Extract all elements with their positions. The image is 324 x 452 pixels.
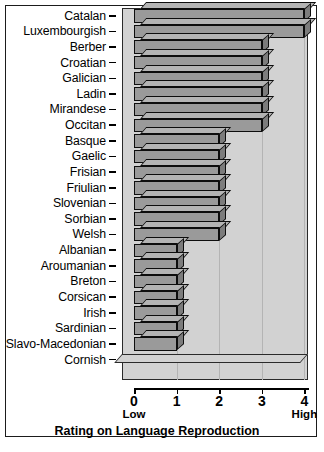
x-axis-low-label: Low bbox=[114, 408, 154, 420]
category-label-row: Luxembourgish bbox=[0, 24, 118, 40]
bar-top-face bbox=[140, 33, 274, 40]
category-label: Occitan bbox=[65, 119, 106, 131]
category-tick-mark bbox=[109, 234, 116, 236]
category-label-row: Croatian bbox=[0, 55, 118, 71]
category-label-row: Frisian bbox=[0, 164, 118, 180]
category-label: Berber bbox=[70, 41, 106, 53]
category-label-row: Ladin bbox=[0, 86, 118, 102]
x-tick-label: 0 bbox=[122, 393, 146, 409]
category-label-row: Slavo-Macedonian bbox=[0, 336, 118, 352]
category-tick-mark bbox=[109, 328, 116, 330]
category-label-row: Galician bbox=[0, 71, 118, 87]
bar-top-face bbox=[140, 174, 231, 181]
category-label: Croatian bbox=[60, 57, 106, 69]
x-tick-label: 1 bbox=[165, 393, 189, 409]
bar-top-face bbox=[140, 112, 274, 119]
category-label: Sorbian bbox=[64, 213, 106, 225]
category-label: Sardinian bbox=[55, 322, 106, 334]
x-tick-label: 2 bbox=[207, 393, 231, 409]
category-label: Welsh bbox=[73, 228, 106, 240]
bar-top-face bbox=[140, 96, 274, 103]
bar-top-face bbox=[140, 127, 231, 134]
bar bbox=[134, 337, 177, 350]
category-tick-mark bbox=[109, 62, 116, 64]
bar-front-face bbox=[134, 337, 177, 350]
category-label: Frisian bbox=[70, 166, 106, 178]
base-front-edge bbox=[114, 354, 308, 363]
category-tick-mark bbox=[109, 156, 116, 158]
category-tick-mark bbox=[109, 140, 116, 142]
category-label: Galician bbox=[62, 72, 106, 84]
category-tick-mark bbox=[109, 218, 116, 220]
category-tick-mark bbox=[109, 93, 116, 95]
category-label-row: Welsh bbox=[0, 227, 118, 243]
category-label: Luxembourgish bbox=[23, 25, 106, 37]
category-label: Breton bbox=[70, 275, 106, 287]
category-tick-mark bbox=[109, 203, 116, 205]
bar-top-face bbox=[140, 205, 231, 212]
category-label-row: Occitan bbox=[0, 117, 118, 133]
category-tick-mark bbox=[109, 187, 116, 189]
category-tick-mark bbox=[109, 343, 116, 345]
chart-figure: CatalanLuxembourgishBerberCroatianGalici… bbox=[0, 0, 324, 452]
bar-top-face bbox=[140, 80, 274, 87]
category-tick-mark bbox=[109, 171, 116, 173]
bar-top-face bbox=[140, 221, 231, 228]
category-label-row: Aroumanian bbox=[0, 258, 118, 274]
bar-top-face bbox=[140, 143, 231, 150]
category-label: Ladin bbox=[76, 88, 106, 100]
x-tick-label: 3 bbox=[250, 393, 274, 409]
bar-top-face bbox=[140, 18, 316, 25]
category-tick-mark bbox=[109, 296, 116, 298]
category-label-row: Mirandese bbox=[0, 102, 118, 118]
category-label: Slovenian bbox=[53, 197, 106, 209]
x-axis-line bbox=[134, 388, 309, 390]
category-axis-labels: CatalanLuxembourgishBerberCroatianGalici… bbox=[0, 8, 118, 376]
category-label-row: Irish bbox=[0, 305, 118, 321]
gridline-4 bbox=[304, 8, 305, 380]
category-label-row: Gaelic bbox=[0, 149, 118, 165]
category-label: Friulian bbox=[66, 182, 106, 194]
category-label-row: Corsican bbox=[0, 289, 118, 305]
category-label-row: Basque bbox=[0, 133, 118, 149]
category-label: Cornish bbox=[64, 354, 106, 366]
x-tick-label: 4 bbox=[292, 393, 316, 409]
bar-top-face bbox=[140, 159, 231, 166]
category-label-row: Friulian bbox=[0, 180, 118, 196]
category-label-row: Berber bbox=[0, 39, 118, 55]
x-axis-title: Rating on Language Reproduction bbox=[0, 424, 314, 438]
category-label: Basque bbox=[65, 135, 106, 147]
category-label-row: Sardinian bbox=[0, 321, 118, 337]
category-label: Catalan bbox=[64, 10, 106, 22]
category-label-row: Catalan bbox=[0, 8, 118, 24]
category-tick-mark bbox=[109, 312, 116, 314]
category-label: Aroumanian bbox=[41, 260, 106, 272]
category-tick-mark bbox=[109, 265, 116, 267]
category-label-row: Breton bbox=[0, 274, 118, 290]
category-label: Irish bbox=[83, 307, 106, 319]
category-tick-mark bbox=[109, 31, 116, 33]
bar-top-face bbox=[140, 2, 316, 9]
category-tick-mark bbox=[109, 109, 116, 111]
category-tick-mark bbox=[109, 15, 116, 17]
category-label: Slavo-Macedonian bbox=[6, 338, 106, 350]
category-tick-mark bbox=[109, 78, 116, 80]
category-label: Mirandese bbox=[49, 103, 106, 115]
category-label: Corsican bbox=[58, 291, 106, 303]
category-label: Gaelic bbox=[72, 150, 106, 162]
bar-top-face bbox=[140, 65, 274, 72]
bar-top-face bbox=[140, 49, 274, 56]
category-label-row: Albanian bbox=[0, 242, 118, 258]
category-tick-mark bbox=[109, 249, 116, 251]
category-label-row: Sorbian bbox=[0, 211, 118, 227]
category-tick-mark bbox=[109, 281, 116, 283]
x-axis-high-label: High bbox=[284, 408, 324, 420]
category-label-row: Slovenian bbox=[0, 196, 118, 212]
category-label: Albanian bbox=[59, 244, 106, 256]
plot-area bbox=[122, 8, 314, 388]
x-axis: 01234 Low High bbox=[122, 388, 322, 410]
category-tick-mark bbox=[109, 124, 116, 126]
category-label-row: Cornish bbox=[0, 352, 118, 368]
category-tick-mark bbox=[109, 46, 116, 48]
bar-top-face bbox=[140, 190, 231, 197]
